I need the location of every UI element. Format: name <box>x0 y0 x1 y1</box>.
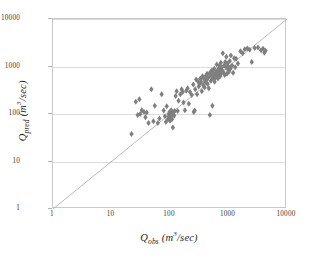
data-point <box>145 109 149 115</box>
y-tick-label: 10000 <box>1 14 20 22</box>
data-point <box>250 59 254 65</box>
y-axis-title: Qpred (m3/sec) <box>15 26 31 196</box>
y-tickmark <box>48 18 52 19</box>
data-point <box>175 88 179 94</box>
x-axis-title: Qobs (m3/sec) <box>52 230 286 246</box>
data-point <box>195 91 199 97</box>
x-axis-title-subscript: obs <box>148 237 159 246</box>
data-point <box>159 91 163 97</box>
y-axis-title-exponent: 3 <box>15 101 23 105</box>
data-point <box>153 103 157 109</box>
data-point <box>187 101 191 107</box>
y-axis-title-unit-end: /sec) <box>17 80 28 101</box>
data-point <box>193 86 197 92</box>
x-tick-label: 1000 <box>220 210 235 218</box>
data-point <box>176 98 180 104</box>
data-point <box>171 124 175 130</box>
scatter-chart-figure: 10000 1000 100 10 1 1 10 100 1000 10000 … <box>0 0 310 260</box>
data-point <box>146 120 150 126</box>
x-axis-title-unit: (m <box>162 232 173 243</box>
data-point <box>236 61 240 67</box>
data-point <box>183 107 187 113</box>
x-tick-label: 10000 <box>277 210 296 218</box>
y-axis-title-symbol: Q <box>17 133 28 141</box>
data-point <box>191 81 195 87</box>
data-point <box>137 96 141 102</box>
y-axis-title-unit: (m <box>17 105 28 116</box>
y-tickmark <box>48 113 52 114</box>
data-point <box>162 108 166 114</box>
data-point <box>231 70 235 76</box>
y-axis-title-subscript: pred <box>22 119 31 133</box>
data-point <box>151 118 155 124</box>
data-layer <box>53 19 287 209</box>
data-point <box>165 103 169 109</box>
data-point <box>143 114 147 120</box>
data-point <box>224 54 228 60</box>
data-point <box>134 99 138 105</box>
data-point <box>210 103 214 109</box>
plot-area <box>52 18 286 208</box>
y-tickmark <box>48 161 52 162</box>
data-point <box>252 45 256 51</box>
x-axis-title-unit-end: /sec) <box>177 232 198 243</box>
data-point <box>149 86 153 92</box>
x-tick-label: 100 <box>163 210 174 218</box>
y-tickmark <box>48 66 52 67</box>
data-point <box>129 131 133 137</box>
data-point <box>174 93 178 99</box>
y-tick-label: 1 <box>16 204 20 212</box>
data-point <box>221 50 225 56</box>
x-tick-label: 10 <box>107 210 115 218</box>
y-tickmark <box>48 208 52 209</box>
x-axis-title-symbol: Q <box>140 232 148 243</box>
x-tick-label: 1 <box>50 210 54 218</box>
data-point <box>208 112 212 118</box>
